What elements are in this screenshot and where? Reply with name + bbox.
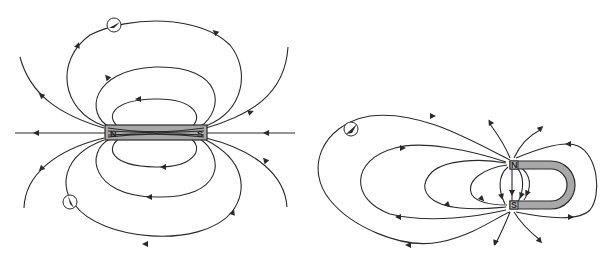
field-line-open-top-left (20, 57, 104, 128)
horseshoe-south-label: S (511, 200, 517, 210)
field-line-inner-top (112, 99, 196, 128)
bar-south-label: S (197, 129, 203, 139)
field-line-open-bottom-right (206, 138, 287, 207)
arrow-mid-bottom (146, 194, 152, 200)
bar-north-label: N (110, 129, 117, 139)
arrow-axis-right (263, 130, 269, 136)
arrow-axis-left (33, 130, 39, 136)
arrow-inner-bottom (160, 164, 166, 170)
arrow-gap-3 (517, 192, 525, 200)
arrow-gap-1 (498, 193, 505, 200)
arrow-big-top (430, 113, 436, 119)
field-line-loop-2 (361, 145, 506, 219)
field-line-radiate-down-left (495, 212, 510, 245)
arrow-gap-2 (509, 190, 515, 196)
arrow-right-loop-bottom (568, 214, 574, 220)
field-line-mid-bottom (96, 139, 215, 197)
arrow-right-loop-top (565, 141, 571, 147)
arrow-loop3-bottom (444, 201, 452, 209)
field-line-outer-top (67, 21, 242, 126)
arrow-radiate-up-left (486, 118, 494, 126)
field-line-open-top-right (206, 47, 288, 128)
compass-top (107, 18, 121, 32)
field-line-radiate-down-right (514, 212, 540, 240)
horseshoe-magnet (510, 161, 575, 209)
field-line-mid-top (96, 67, 215, 127)
bar-magnet-diagram: N S (15, 18, 295, 247)
field-line-inner-bottom (112, 138, 196, 167)
magnetic-field-diagram: N S (0, 0, 613, 256)
field-line-loop-4 (471, 165, 507, 205)
compass-bottom (63, 195, 77, 209)
horseshoe-magnet-diagram: N S (318, 113, 597, 248)
field-line-outer-bottom (66, 140, 241, 236)
arrow-outer-top-left (74, 41, 82, 49)
field-line-gap-1 (500, 167, 508, 204)
diagram-canvas: N S (0, 0, 613, 256)
compass-horseshoe (344, 122, 358, 136)
arrow-outer-bottom-mid (142, 241, 148, 247)
field-line-radiate-up-left (490, 124, 510, 158)
horseshoe-north-label: N (511, 160, 518, 170)
arrow-open-bottom-left (37, 165, 45, 173)
